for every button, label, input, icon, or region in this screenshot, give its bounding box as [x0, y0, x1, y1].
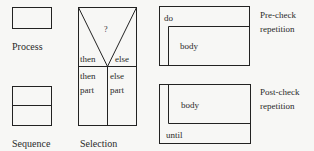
diagram-svg: Process Sequence Selection ? then else t…: [0, 0, 314, 151]
selection-then-part-2: part: [80, 85, 94, 95]
precheck-body: body: [180, 41, 199, 51]
precheck-caption-2: repetition: [260, 24, 295, 34]
selection-then-part-1: then: [80, 71, 96, 81]
nassi-shneiderman-diagram: Process Sequence Selection ? then else t…: [0, 0, 314, 151]
selection-else-part-1: else: [110, 71, 124, 81]
selection-condition: ?: [104, 25, 108, 34]
precheck-outer-box: [160, 7, 250, 66]
sequence-caption: Sequence: [12, 138, 51, 149]
process-box: [13, 8, 52, 29]
selection-else-label: else: [115, 54, 129, 64]
postcheck-caption-1: Post-check: [260, 87, 300, 97]
precheck-keyword: do: [164, 13, 174, 23]
postcheck-caption-2: repetition: [260, 101, 295, 111]
selection-caption: Selection: [80, 138, 117, 149]
precheck-caption-1: Pre-check: [260, 10, 296, 20]
selection-then-label: then: [80, 54, 96, 64]
postcheck-keyword: until: [166, 130, 183, 140]
process-caption: Process: [12, 41, 43, 52]
postcheck-body: body: [181, 100, 200, 110]
selection-else-part-2: part: [110, 85, 124, 95]
